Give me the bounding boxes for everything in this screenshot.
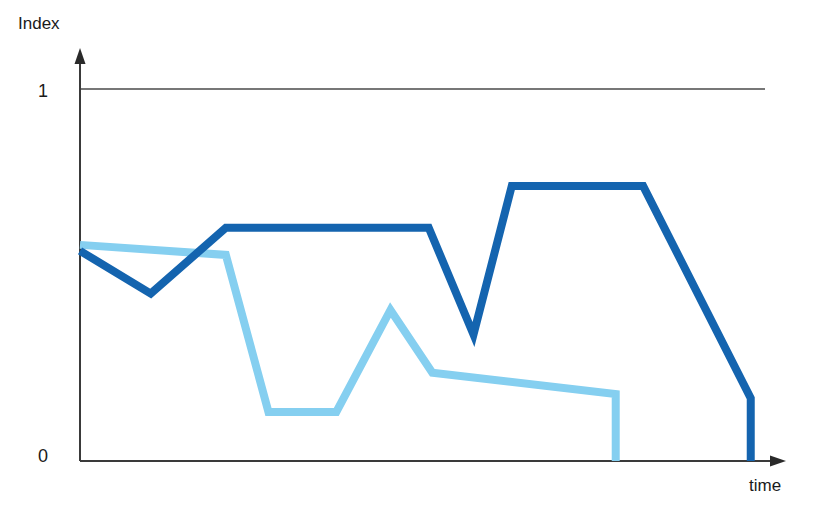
y-tick-label-0: 0 [38,446,48,466]
chart-svg: Index 1 0 time [0,0,821,507]
y-axis-title: Index [18,14,60,33]
x-axis-title: time [749,476,781,495]
chart-background [0,0,821,507]
line-chart: Index 1 0 time [0,0,821,507]
y-tick-label-1: 1 [38,81,48,101]
